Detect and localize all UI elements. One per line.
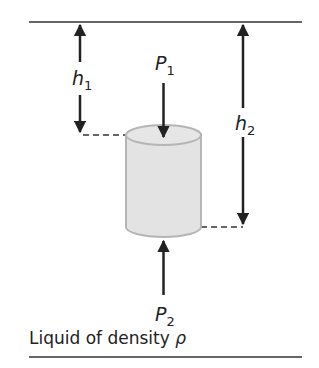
p1-label: P1 [155, 54, 175, 77]
h2-symbol: h [235, 112, 247, 134]
p2-subscript: 2 [166, 314, 174, 329]
caption-text: Liquid of density [29, 328, 175, 348]
h2-label: h2 [235, 114, 255, 137]
h1-symbol: h [72, 67, 84, 89]
p1-symbol: P [155, 52, 166, 74]
p2-symbol: P [155, 303, 166, 325]
liquid-caption: Liquid of density ρ [29, 328, 186, 348]
p2-label: P2 [155, 305, 175, 328]
h2-subscript: 2 [247, 123, 255, 138]
p1-subscript: 1 [166, 63, 174, 78]
cylinder [126, 125, 201, 237]
h1-subscript: 1 [84, 78, 92, 93]
density-symbol: ρ [175, 328, 186, 348]
h1-label: h1 [72, 69, 92, 92]
